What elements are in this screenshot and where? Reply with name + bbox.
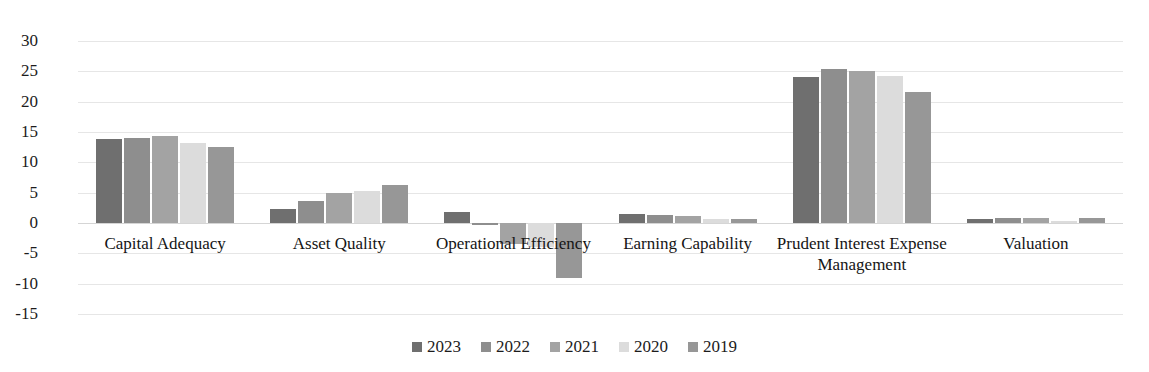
bar[interactable] [124,138,150,223]
gridline [78,314,1123,315]
bar[interactable] [444,212,470,223]
bar-slot [619,41,645,314]
bar[interactable] [905,92,931,223]
bar[interactable] [675,216,701,223]
bar-slot [500,41,526,314]
bar[interactable] [1079,218,1105,223]
bar[interactable] [354,191,380,223]
legend-label: 2019 [703,338,737,355]
y-axis-tick-label: 0 [0,214,38,231]
bar[interactable] [647,215,673,223]
y-axis-tick-label: 20 [0,93,38,110]
bar-slot [647,41,673,314]
bar-group: Capital Adequacy [78,41,252,314]
bar-slot [270,41,296,314]
bar-group-bars [601,41,775,314]
bar-slot [995,41,1021,314]
bar-slot [731,41,757,314]
y-axis-tick-label: 30 [0,32,38,49]
x-axis-category-label: Prudent Interest Expense Management [761,233,963,275]
x-axis-category-label: Capital Adequacy [64,233,266,254]
legend-label: 2021 [565,338,599,355]
bar-slot [1023,41,1049,314]
bar-slot [96,41,122,314]
bar[interactable] [96,139,122,223]
bar[interactable] [731,219,757,223]
x-axis-category-label: Earning Capability [587,233,789,254]
legend-item[interactable]: 2020 [619,338,668,355]
bar[interactable] [208,147,234,223]
bar-slot [703,41,729,314]
bar-group: Asset Quality [252,41,426,314]
legend-label: 2023 [427,338,461,355]
chart-legend: 20232022202120202019 [0,338,1149,355]
bar-slot [382,41,408,314]
x-axis-category-label: Valuation [935,233,1137,254]
bar[interactable] [849,71,875,223]
bar-group: Prudent Interest Expense Management [775,41,949,314]
y-axis-tick-label: -15 [0,305,38,322]
legend-item[interactable]: 2023 [412,338,461,355]
legend-label: 2020 [634,338,668,355]
bar-group: Earning Capability [601,41,775,314]
bar[interactable] [821,69,847,223]
bar-slot [444,41,470,314]
legend-swatch-icon [688,342,698,352]
bar[interactable] [703,219,729,223]
bar-slot [472,41,498,314]
bar-slot [152,41,178,314]
x-axis-category-label: Asset Quality [238,233,440,254]
x-axis-category-label: Operational Efficiency [412,233,614,254]
bar[interactable] [1023,218,1049,223]
y-axis-tick-label: 25 [0,62,38,79]
bar-slot [967,41,993,314]
bar-group-bars [426,41,600,314]
legend-swatch-icon [550,342,560,352]
bar-group-bars [949,41,1123,314]
bar-slot [180,41,206,314]
bar[interactable] [995,218,1021,223]
bar-slot [326,41,352,314]
bar[interactable] [619,214,645,223]
bar-group-bars [78,41,252,314]
bar[interactable] [877,76,903,223]
bar-slot [528,41,554,314]
bar-slot [675,41,701,314]
bar-chart: 302520151050-5-10-15 Capital AdequacyAss… [0,0,1149,372]
bar-groups: Capital AdequacyAsset QualityOperational… [78,41,1123,314]
bar[interactable] [1051,221,1077,223]
bar[interactable] [326,193,352,223]
bar-slot [354,41,380,314]
bar-slot [124,41,150,314]
legend-swatch-icon [412,342,422,352]
bar-group: Operational Efficiency [426,41,600,314]
plot-area: 302520151050-5-10-15 Capital AdequacyAss… [78,41,1123,314]
y-axis-tick-label: -5 [0,244,38,261]
bar[interactable] [298,201,324,223]
bar[interactable] [270,209,296,223]
bar[interactable] [382,185,408,223]
bar[interactable] [793,77,819,223]
y-axis-tick-label: -10 [0,275,38,292]
legend-swatch-icon [619,342,629,352]
bar-slot [1079,41,1105,314]
legend-label: 2022 [496,338,530,355]
bar[interactable] [472,223,498,225]
y-axis-tick-label: 15 [0,123,38,140]
bar-slot [208,41,234,314]
bar-slot [556,41,582,314]
bar[interactable] [967,219,993,223]
bar-slot [298,41,324,314]
y-axis-tick-label: 5 [0,184,38,201]
bar[interactable] [152,136,178,223]
bar-slot [1051,41,1077,314]
legend-item[interactable]: 2019 [688,338,737,355]
y-axis-tick-label: 10 [0,153,38,170]
legend-item[interactable]: 2022 [481,338,530,355]
bar[interactable] [180,143,206,223]
bar-group-bars [252,41,426,314]
bar-group: Valuation [949,41,1123,314]
legend-swatch-icon [481,342,491,352]
legend-item[interactable]: 2021 [550,338,599,355]
